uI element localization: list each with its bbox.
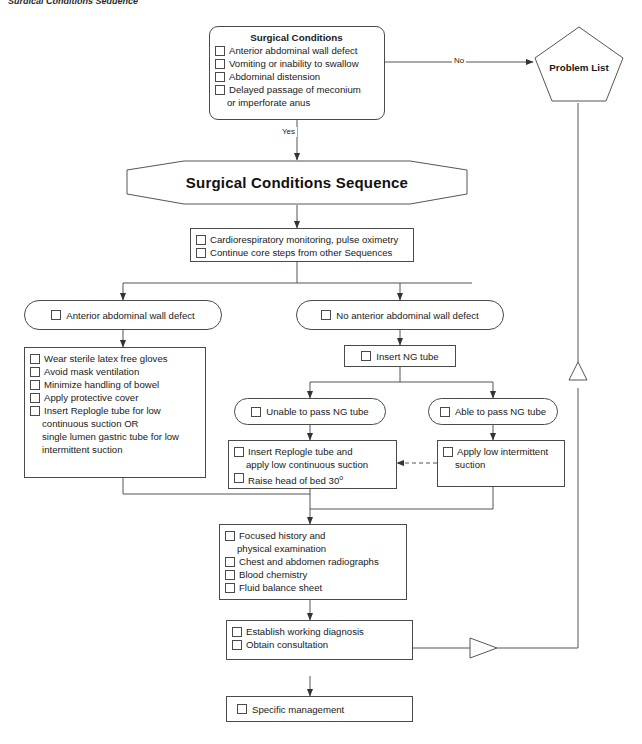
checkbox-icon[interactable] — [30, 380, 40, 390]
checkbox-icon[interactable] — [443, 447, 453, 457]
node-monitoring[interactable]: Cardiorespiratory monitoring, pulse oxim… — [190, 228, 414, 262]
insert-ng-label: Insert NG tube — [376, 351, 438, 362]
checklist-item[interactable]: Chest and abdomen radiographs — [225, 555, 400, 568]
checkbox-icon[interactable] — [215, 85, 225, 95]
checklist-item-continuation: suction — [443, 458, 558, 471]
unable-pass-label: Unable to pass NG tube — [266, 406, 368, 417]
checklist-item[interactable]: Raise head of bed 30o — [234, 471, 390, 487]
node-sequence-banner: Surgical Conditions Sequence — [126, 160, 468, 205]
checkbox-icon[interactable] — [234, 447, 244, 457]
checklist-item-continuation: physical examination — [225, 542, 400, 555]
checkbox-icon[interactable] — [321, 310, 331, 320]
checkbox-icon[interactable] — [251, 407, 261, 417]
checkbox-icon[interactable] — [215, 59, 225, 69]
node-anterior-care[interactable]: Wear sterile latex free gloves Avoid mas… — [24, 347, 206, 478]
checklist-item[interactable]: Minimize handling of bowel — [30, 378, 199, 391]
checklist-item[interactable]: Insert Replogle tube and — [234, 445, 390, 458]
node-anterior-defect[interactable]: Anterior abdominal wall defect — [24, 300, 222, 330]
offpage-connector-up — [569, 362, 587, 380]
checkbox-icon[interactable] — [225, 531, 235, 541]
checklist-item[interactable]: Avoid mask ventilation — [30, 365, 199, 378]
able-pass-label: Able to pass NG tube — [455, 406, 546, 417]
checkbox-icon[interactable] — [361, 351, 371, 361]
anterior-defect-label: Anterior abdominal wall defect — [66, 310, 195, 321]
checkbox-icon[interactable] — [225, 570, 235, 580]
checkbox-icon[interactable] — [237, 704, 247, 714]
checklist-item-continuation: or imperforate anus — [215, 96, 378, 109]
checklist-item[interactable]: Establish working diagnosis — [232, 625, 406, 638]
offpage-connector-right — [470, 638, 497, 658]
checklist-item[interactable]: Cardiorespiratory monitoring, pulse oxim… — [196, 233, 407, 246]
node-problem-list[interactable]: Problem List — [533, 25, 625, 103]
checkbox-icon[interactable] — [215, 46, 225, 56]
checklist-item[interactable]: Fluid balance sheet — [225, 581, 400, 594]
checklist-item[interactable]: Apply low intermittent — [443, 445, 558, 458]
checkbox-icon[interactable] — [232, 640, 242, 650]
checkbox-icon[interactable] — [234, 473, 244, 483]
checklist-item[interactable]: Focused history and — [225, 529, 400, 542]
no-anterior-defect-label: No anterior abdominal wall defect — [336, 310, 478, 321]
node-insert-replogle[interactable]: Insert Replogle tube and apply low conti… — [228, 440, 397, 489]
node-intermittent-suction[interactable]: Apply low intermittent suction — [437, 440, 565, 487]
node-no-anterior-defect[interactable]: No anterior abdominal wall defect — [296, 300, 504, 330]
surgical-conditions-title: Surgical Conditions — [215, 31, 378, 44]
sequence-banner-label: Surgical Conditions Sequence — [186, 174, 408, 191]
checkbox-icon[interactable] — [215, 72, 225, 82]
node-specific-management[interactable]: Specific management — [226, 696, 413, 722]
node-diagnosis[interactable]: Establish working diagnosis Obtain consu… — [226, 620, 413, 660]
checklist-item[interactable]: Continue core steps from other Sequences — [196, 246, 407, 259]
node-workup[interactable]: Focused history and physical examination… — [219, 524, 407, 600]
specific-management-label: Specific management — [252, 704, 344, 715]
checkbox-icon[interactable] — [196, 235, 206, 245]
checklist-item[interactable]: Blood chemistry — [225, 568, 400, 581]
checklist-item[interactable]: Insert Replogle tube for low — [30, 404, 199, 417]
node-able-pass-ng[interactable]: Able to pass NG tube — [428, 398, 558, 425]
checkbox-icon[interactable] — [225, 583, 235, 593]
checkbox-icon[interactable] — [440, 407, 450, 417]
checkbox-icon[interactable] — [232, 627, 242, 637]
checklist-item-continuation: apply low continuous suction — [234, 458, 390, 471]
checklist-item[interactable]: Vomiting or inability to swallow — [215, 57, 378, 70]
node-unable-pass-ng[interactable]: Unable to pass NG tube — [234, 398, 386, 425]
checkbox-icon[interactable] — [196, 248, 206, 258]
checkbox-icon[interactable] — [51, 310, 61, 320]
checklist-item-continuation: continuous suction OR — [30, 417, 199, 430]
checkbox-icon[interactable] — [225, 557, 235, 567]
checklist-item[interactable]: Wear sterile latex free gloves — [30, 352, 199, 365]
checklist-item-continuation: intermittent suction — [30, 443, 199, 456]
page-title-crumb: Surgical Conditions Sequence — [8, 0, 138, 4]
checkbox-icon[interactable] — [30, 354, 40, 364]
checkbox-icon[interactable] — [30, 393, 40, 403]
checklist-item[interactable]: Apply protective cover — [30, 391, 199, 404]
node-insert-ng-tube[interactable]: Insert NG tube — [344, 345, 456, 367]
edge-label-yes: Yes — [280, 127, 297, 137]
checklist-item[interactable]: Delayed passage of meconium — [215, 83, 378, 96]
node-surgical-conditions[interactable]: Surgical Conditions Anterior abdominal w… — [209, 26, 385, 120]
checklist-item-continuation: single lumen gastric tube for low — [30, 430, 199, 443]
checklist-item[interactable]: Abdominal distension — [215, 70, 378, 83]
flowchart-canvas: Surgical Conditions Sequence — [0, 0, 642, 744]
checklist-item[interactable]: Anterior abdominal wall defect — [215, 44, 378, 57]
checklist-item[interactable]: Obtain consultation — [232, 638, 406, 651]
edge-label-no: No — [452, 56, 466, 66]
checkbox-icon[interactable] — [30, 367, 40, 377]
problem-list-label: Problem List — [549, 62, 608, 73]
checkbox-icon[interactable] — [30, 406, 40, 416]
degree-symbol: o — [339, 474, 343, 481]
